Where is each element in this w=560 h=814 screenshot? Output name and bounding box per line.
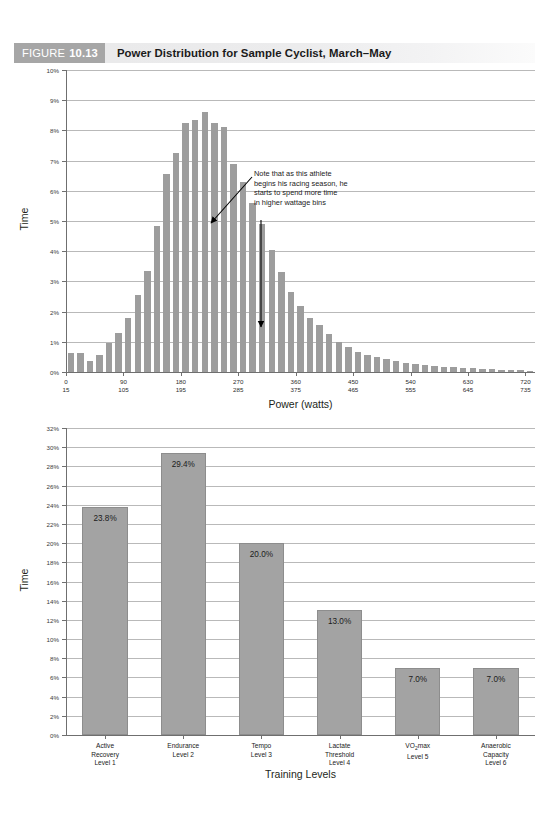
training-level-bar: [82, 507, 127, 735]
category-label: LactateThresholdLevel 4: [300, 742, 380, 768]
category-label-line: Level 2: [143, 751, 223, 760]
y-tick-label: 26%: [42, 482, 59, 489]
training-levels-chart: 0%2%4%6%8%10%12%14%16%18%20%22%24%26%28%…: [0, 420, 560, 810]
y-tick-label: 30%: [42, 444, 59, 451]
figure-tag-word: FIGURE: [22, 47, 65, 59]
category-label-line: Tempo: [221, 742, 301, 751]
category-label-line: Anaerobic: [456, 742, 536, 751]
x-tick-mark: [183, 735, 184, 739]
training-level-bar: [161, 453, 206, 735]
y-tick-label: 24%: [42, 501, 59, 508]
figure-tag-number: 10.13: [69, 47, 98, 59]
y-tick-label: 0%: [42, 732, 59, 739]
gridline: [66, 658, 535, 659]
bar-value-label: 23.8%: [93, 514, 116, 523]
annotation-arrow-diagonal: [211, 177, 252, 223]
y-tick-label: 12%: [42, 616, 59, 623]
category-label-line: VO2max: [378, 742, 458, 753]
gridline: [66, 582, 535, 583]
gridline: [66, 639, 535, 640]
category-label: AnaerobicCapacityLevel 6: [456, 742, 536, 768]
annotation-arrows: [0, 65, 560, 415]
category-label-line: Level 1: [65, 759, 145, 768]
y-tick-label: 16%: [42, 578, 59, 585]
figure-caption-bar: FIGURE 10.13 Power Distribution for Samp…: [14, 43, 535, 63]
y-axis-title: Time: [18, 550, 30, 610]
category-label-line: Recovery: [65, 751, 145, 760]
x-tick-mark: [496, 735, 497, 739]
x-tick-mark: [418, 735, 419, 739]
y-tick-label: 14%: [42, 597, 59, 604]
y-tick-label: 20%: [42, 540, 59, 547]
category-label: EnduranceLevel 2: [143, 742, 223, 759]
x-tick-mark: [261, 735, 262, 739]
x-axis-title: Training Levels: [66, 768, 535, 780]
category-label-line: Level 5: [378, 753, 458, 762]
running-head: [96, 0, 356, 6]
gridline: [66, 620, 535, 621]
gridline: [66, 486, 535, 487]
gridline: [66, 428, 535, 429]
category-label: TempoLevel 3: [221, 742, 301, 759]
bar-value-label: 7.0%: [487, 675, 506, 684]
gridline: [66, 543, 535, 544]
figure-number-tag: FIGURE 10.13: [14, 43, 105, 63]
gridline: [66, 466, 535, 467]
training-level-bar: [317, 610, 362, 735]
y-axis-line: [66, 428, 67, 735]
gridline: [66, 601, 535, 602]
category-label-line: Endurance: [143, 742, 223, 751]
y-tick-label: 32%: [42, 425, 59, 432]
gridline: [66, 562, 535, 563]
y-tick-label: 22%: [42, 520, 59, 527]
bar-value-label: 13.0%: [328, 617, 351, 626]
category-label-line: Lactate: [300, 742, 380, 751]
y-tick-label: 2%: [42, 712, 59, 719]
gridline: [66, 447, 535, 448]
y-tick-label: 10%: [42, 636, 59, 643]
gridline: [66, 697, 535, 698]
gridline: [66, 505, 535, 506]
gridline: [66, 716, 535, 717]
category-label-line: Active: [65, 742, 145, 751]
category-label-line: Level 4: [300, 759, 380, 768]
y-tick-label: 28%: [42, 463, 59, 470]
y-tick-label: 4%: [42, 693, 59, 700]
gridline: [66, 677, 535, 678]
bar-value-label: 20.0%: [250, 550, 273, 559]
category-label-line: Threshold: [300, 751, 380, 760]
category-label: VO2maxLevel 5: [378, 742, 458, 762]
category-label-line: Level 6: [456, 759, 536, 768]
gridline: [66, 524, 535, 525]
x-axis-line: [66, 735, 535, 736]
figure-title: Power Distribution for Sample Cyclist, M…: [105, 43, 392, 63]
bar-value-label: 7.0%: [408, 675, 427, 684]
category-label-line: Level 3: [221, 751, 301, 760]
training-level-bar: [239, 543, 284, 735]
y-tick-label: 8%: [42, 655, 59, 662]
training-levels-plot-area: [66, 428, 535, 735]
y-tick-label: 6%: [42, 674, 59, 681]
y-tick-label: 18%: [42, 559, 59, 566]
figure-page: FIGURE 10.13 Power Distribution for Samp…: [0, 0, 560, 814]
x-tick-mark: [340, 735, 341, 739]
x-tick-mark: [105, 735, 106, 739]
category-label: ActiveRecoveryLevel 1: [65, 742, 145, 768]
category-label-line: Capacity: [456, 751, 536, 760]
bar-value-label: 29.4%: [172, 460, 195, 469]
power-distribution-chart: 0%1%2%3%4%5%6%7%8%9%10%01590105180195270…: [0, 65, 560, 415]
